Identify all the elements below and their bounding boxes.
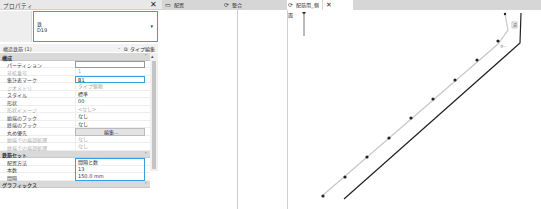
rebar-centerline[interactable] [322, 14, 508, 196]
section-view-drawing[interactable]: 鉄 ター [0, 0, 541, 209]
concrete-edge [344, 13, 521, 199]
tab-indicator-icon [302, 12, 306, 15]
rebar-tag-label: 鉄 [513, 22, 517, 28]
dimension-label: ター [500, 44, 507, 49]
rebar-points [321, 13, 506, 198]
